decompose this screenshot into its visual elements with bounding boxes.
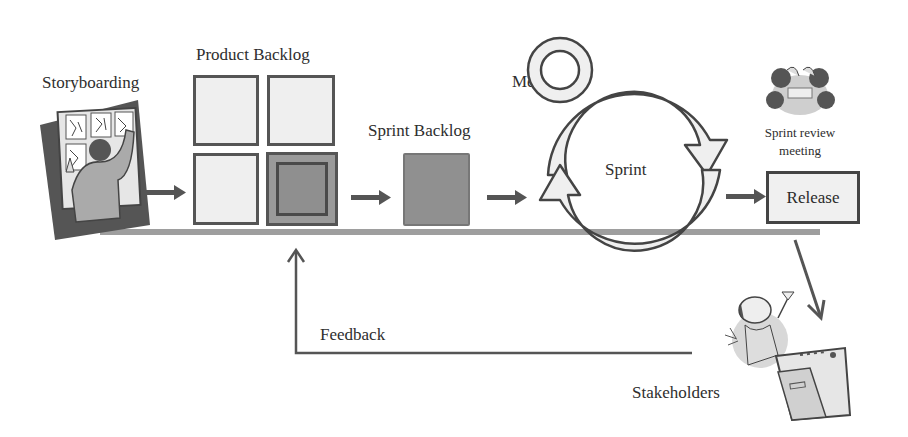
storyboarding-label: Storyboarding: [42, 73, 139, 93]
product-backlog-item-1[interactable]: [193, 75, 259, 146]
release-label: Release: [787, 188, 840, 208]
daily-meetings-line1: Daily: [548, 49, 586, 71]
product-backlog-item-selected[interactable]: [266, 152, 338, 226]
timeline-bar: [100, 229, 820, 235]
product-backlog-item-2[interactable]: [267, 75, 335, 146]
product-backlog-label: Product Backlog: [196, 45, 310, 65]
product-backlog-item-3[interactable]: [193, 153, 259, 225]
sprint-backlog-label: Sprint Backlog: [368, 121, 470, 141]
daily-meetings-label: Daily Meetings: [520, 49, 586, 93]
selected-item-inner: [276, 162, 328, 216]
stakeholders-label: Stakeholders: [632, 383, 720, 403]
sprint-review-line2: meeting: [746, 142, 854, 160]
feedback-label: Feedback: [320, 325, 385, 345]
sprint-review-line1: Sprint review: [746, 124, 854, 142]
sprint-label: Sprint: [605, 160, 647, 180]
sprint-backlog-item[interactable]: [403, 153, 470, 226]
release-box[interactable]: Release: [766, 171, 860, 224]
scrum-process-diagram: Storyboarding Product Backlog Sprint Bac…: [0, 0, 908, 437]
sprint-review-meeting-label: Sprint review meeting: [746, 124, 854, 160]
daily-meetings-line2: Meetings: [512, 71, 586, 93]
